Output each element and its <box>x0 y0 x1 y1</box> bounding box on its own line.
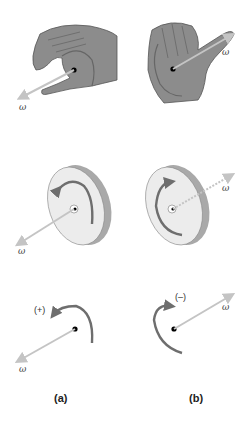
panel-label-a: (a) <box>54 392 67 404</box>
figure-graphics <box>0 0 244 422</box>
positive-sign-label: (+) <box>34 305 45 315</box>
panel-label-b: (b) <box>189 392 203 404</box>
omega-label-disk-a: ω <box>18 246 25 256</box>
schematic-b-icon <box>154 296 230 353</box>
omega-label-disk-b: ω <box>222 183 229 193</box>
omega-label-schematic-a: ω <box>19 364 26 374</box>
disk-b-icon <box>136 157 230 252</box>
negative-sign-label: (–) <box>175 292 186 302</box>
schematic-a-icon <box>20 306 92 360</box>
hand-b-icon <box>148 23 234 103</box>
right-hand-rule-figure: ω ω ω ω ω ω (+) (–) (a) (b) <box>0 0 244 422</box>
omega-label-schematic-b: ω <box>222 302 229 312</box>
omega-label-hand-a: ω <box>19 102 26 112</box>
disk-a-icon <box>20 157 121 252</box>
omega-label-hand-b: ω <box>222 47 229 57</box>
hand-a-icon <box>22 25 117 97</box>
